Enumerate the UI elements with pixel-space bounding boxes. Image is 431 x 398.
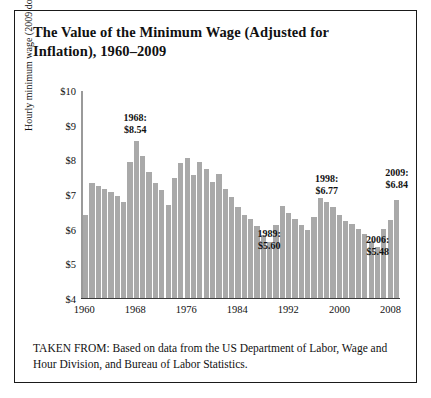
data-label-year: 2006:: [366, 234, 389, 246]
x-axis-tick-label: 2008: [380, 304, 401, 315]
x-axis-tick-label: 1984: [227, 304, 248, 315]
bar: [305, 230, 310, 297]
bar: [388, 220, 393, 297]
bar: [115, 196, 120, 298]
data-label-value: $6.77: [315, 185, 338, 197]
bar: [286, 213, 291, 298]
y-axis-tick-label: $4: [66, 294, 77, 305]
bar: [146, 172, 151, 298]
bar: [83, 215, 88, 298]
bar: [166, 205, 171, 298]
bar: [108, 192, 113, 298]
bar: [191, 175, 196, 298]
bar: [210, 182, 215, 298]
y-axis-tick-label: $7: [66, 190, 77, 201]
bar: [235, 207, 240, 298]
data-label-year: 1968:: [124, 112, 147, 124]
bar: [311, 217, 316, 297]
bar: [153, 183, 158, 298]
y-axis-title: Hourly minimum wage (2009 dollars): [23, 0, 34, 131]
bar: [121, 202, 126, 297]
y-axis-tick-label: $8: [66, 155, 77, 166]
figure-frame: The Value of the Minimum Wage (Adjusted …: [14, 10, 417, 383]
chart-container: Hourly minimum wage (2009 dollars) $4$5$…: [29, 83, 404, 328]
bar: [102, 189, 107, 298]
x-axis-line: [81, 298, 400, 300]
data-label-year: 1989:: [258, 228, 281, 240]
x-axis-tick-label: 1968: [125, 304, 146, 315]
data-label-value: $8.54: [124, 124, 147, 136]
y-axis-tick-label: $9: [66, 120, 77, 131]
bar: [159, 190, 164, 297]
bar: [185, 158, 190, 297]
bar: [324, 202, 329, 297]
data-label: 1968:$8.54: [124, 112, 147, 136]
bar: [229, 197, 234, 297]
data-label: 2009:$6.84: [385, 167, 408, 191]
bar: [356, 229, 361, 297]
bar: [337, 215, 342, 298]
data-label: 2006:$5.48: [366, 234, 389, 258]
bar: [140, 156, 145, 297]
data-label-value: $6.84: [385, 179, 408, 191]
bar: [292, 219, 297, 297]
bar: [134, 141, 139, 297]
data-label-year: 1998:: [315, 173, 338, 185]
bar: [299, 225, 304, 298]
data-label: 1998:$6.77: [315, 173, 338, 197]
data-label-value: $5.60: [258, 240, 281, 252]
bar: [223, 189, 228, 297]
figure-page: The Value of the Minimum Wage (Adjusted …: [0, 0, 431, 398]
bar: [96, 186, 101, 298]
bar: [197, 162, 202, 297]
plot-area: $4$5$6$7$8$9$10 196019681976198419922000…: [81, 91, 400, 299]
bar: [127, 162, 132, 298]
bar: [330, 207, 335, 297]
x-axis-tick-label: 1960: [74, 304, 95, 315]
bar: [248, 219, 253, 298]
y-axis-tick-label: $10: [60, 86, 76, 97]
y-axis-tick-label: $5: [66, 259, 77, 270]
bar: [318, 198, 323, 297]
bar: [394, 200, 399, 298]
data-label: 1989:$5.60: [258, 228, 281, 252]
bar: [343, 221, 348, 298]
data-label-year: 2009:: [385, 167, 408, 179]
page-title: The Value of the Minimum Wage (Adjusted …: [33, 23, 383, 61]
bar: [178, 163, 183, 297]
source-caption: TAKEN FROM: Based on data from the US De…: [33, 341, 401, 373]
bar: [349, 224, 354, 297]
data-label-value: $5.48: [366, 246, 389, 258]
bar: [89, 183, 94, 297]
x-axis-tick-label: 2000: [329, 304, 350, 315]
bar: [242, 215, 247, 298]
bar: [204, 169, 209, 298]
bar: [216, 174, 221, 297]
bar: [172, 178, 177, 298]
x-axis-tick-label: 1976: [176, 304, 197, 315]
x-axis-tick-label: 1992: [278, 304, 299, 315]
y-axis-tick-label: $6: [66, 224, 77, 235]
